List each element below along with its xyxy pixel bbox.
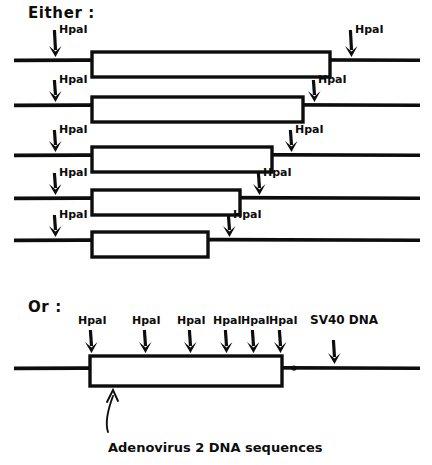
arrow-shaft	[252, 330, 253, 346]
label-hpai: HpaI	[59, 123, 88, 136]
insert-box	[92, 97, 303, 122]
label-hpai: HpaI	[318, 73, 347, 86]
label-sv40-dna: SV40 DNA	[310, 313, 379, 327]
label-hpai: HpaI	[59, 208, 88, 221]
insert-box	[92, 232, 208, 257]
arrow-shaft	[333, 340, 334, 357]
insert-box	[90, 356, 282, 386]
label-hpai: HpaI	[295, 123, 324, 136]
arrow-shaft	[54, 173, 55, 188]
hpai-cleavage-diagram: Either : Or : HpaIHpaIHpaIHpaIHpaIHpaIHp…	[0, 0, 432, 465]
caption-group: Adenovirus 2 DNA sequences	[107, 390, 323, 455]
label-hpai: HpaI	[59, 166, 88, 179]
arrow-shaft	[189, 330, 190, 346]
insert-box	[92, 190, 240, 215]
junction-dot	[291, 365, 296, 370]
insert-box	[92, 147, 272, 172]
label-hpai: HpaI	[78, 314, 107, 327]
label-hpai: HpaI	[241, 314, 270, 327]
either-rows-group: HpaIHpaIHpaIHpaIHpaIHpaIHpaIHpaIHpaIHpaI	[14, 23, 420, 257]
arrow-shaft	[290, 130, 291, 145]
label-hpai: HpaI	[177, 314, 206, 327]
label-hpai: HpaI	[355, 23, 384, 36]
insert-box	[92, 52, 330, 77]
arrow-shaft	[144, 330, 145, 346]
label-hpai: HpaI	[132, 314, 161, 327]
label-hpai: HpaI	[233, 208, 262, 221]
arrow-shaft	[258, 173, 259, 188]
label-hpai: HpaI	[59, 23, 88, 36]
label-hpai: HpaI	[263, 166, 292, 179]
arrow-shaft	[90, 330, 91, 346]
arrow-shaft	[54, 30, 55, 50]
either-row: HpaIHpaI	[14, 23, 420, 77]
either-row: HpaIHpaI	[14, 73, 420, 122]
arrow-shaft	[54, 80, 55, 95]
or-row-group: HpaIHpaIHpaIHpaIHpaIHpaISV40 DNA	[14, 313, 420, 386]
label-hpai: HpaI	[269, 314, 298, 327]
heading-either: Either :	[28, 4, 95, 22]
figure-root: Either : Or : HpaIHpaIHpaIHpaIHpaIHpaIHp…	[0, 0, 432, 465]
label-hpai: HpaI	[213, 314, 242, 327]
heading-or: Or :	[28, 298, 62, 316]
arrow-shaft	[225, 330, 226, 346]
arrow-shaft	[228, 215, 229, 230]
arrow-shaft	[313, 80, 314, 95]
label-hpai: HpaI	[59, 73, 88, 86]
arrow-shaft	[350, 30, 351, 50]
caption-adenovirus-sequences: Adenovirus 2 DNA sequences	[108, 440, 323, 455]
arrow-shaft	[54, 215, 55, 230]
dna-backbone-line	[14, 240, 420, 241]
either-row: HpaIHpaI	[14, 123, 420, 172]
arrow-shaft	[279, 330, 280, 346]
arrow-shaft	[54, 130, 55, 145]
